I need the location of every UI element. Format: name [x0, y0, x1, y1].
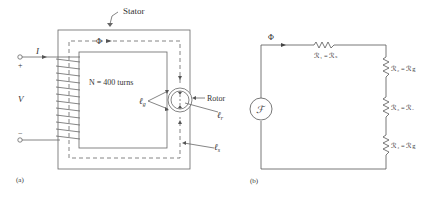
resistor-r2: [383, 57, 389, 77]
resistor-r3: [383, 97, 389, 117]
caption-a: (a): [16, 176, 24, 184]
current-arrow: [42, 55, 47, 59]
coil-winding: [56, 59, 80, 139]
figure-a: [18, 12, 218, 169]
caption-b: (b): [250, 177, 259, 185]
resistor-r1: [314, 42, 334, 48]
minus-sign: −: [18, 129, 23, 138]
flux-path-dashed: [69, 41, 180, 158]
flux-label-a: Φ: [96, 37, 102, 46]
rotor-label: Rotor: [207, 94, 226, 103]
stator-pointer: [110, 12, 118, 24]
terminal-minus: [18, 138, 22, 142]
flux-label-b: Φ: [268, 33, 274, 42]
plus-sign: +: [18, 61, 23, 70]
current-label: I: [35, 46, 40, 56]
flux-arrow-b: [281, 43, 286, 47]
stator-label: Stator: [123, 6, 145, 16]
flux-arrow-top: [106, 39, 112, 43]
terminal-plus: [18, 55, 22, 59]
figure-b: [250, 42, 389, 169]
turns-label: N = 400 turns: [89, 78, 133, 87]
gap-length-label: ℓg: [139, 96, 146, 107]
stator-inner-window: [79, 52, 167, 148]
voltage-label: V: [18, 94, 25, 104]
resistor-r1-label: ℛ₁ = ℛₛ: [314, 52, 337, 59]
resistor-r4-label: ℛ₄ = ℛg: [391, 142, 416, 149]
resistor-r2-label: ℛ₂ = ℛg: [391, 65, 416, 72]
resistor-r4: [383, 135, 389, 155]
rotor-length-label: ℓr: [217, 110, 224, 121]
magnetic-circuit-figure: Stator Φ I + V − N = 400 turns ℓg Rotor …: [0, 0, 429, 199]
resistor-r3-label: ℛ₃ = ℛᵣ: [391, 104, 414, 111]
stator-length-label: ℓs: [214, 142, 221, 153]
